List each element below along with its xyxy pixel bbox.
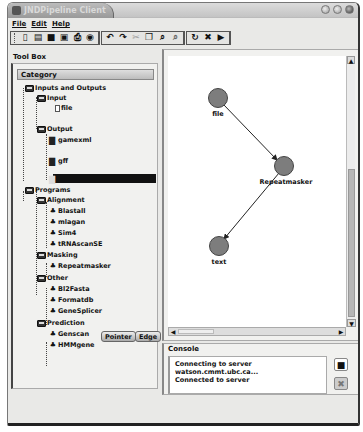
status-area [8, 398, 359, 424]
console-line: Connecting to server [175, 360, 326, 368]
canvas-vertical-scrollbar[interactable]: ▲ ▼ [346, 56, 355, 327]
console-line: watson.cmmt.ubc.ca... [175, 368, 326, 376]
open-icon[interactable]: ▤ [33, 33, 43, 43]
minimize-button[interactable] [321, 5, 330, 14]
app-icon [12, 6, 21, 15]
folder-icon [37, 95, 46, 102]
tree-item-other[interactable]: Other [37, 273, 68, 283]
pointer-button[interactable]: Pointer [101, 331, 136, 342]
toolbar: ▯ ▤ ■ ▣ ⎙ ◉ ↶ ↷ ✂ ❐ ⌕ ⌕ ↻ ✖ ▶ [8, 30, 358, 45]
tree-item-text[interactable]: ▇ text [49, 174, 73, 184]
console-save-button[interactable]: ■ [334, 358, 348, 371]
tree-item-sim4[interactable]: ♣ Sim4 [49, 228, 76, 238]
close-button[interactable] [345, 5, 354, 14]
redo-icon[interactable]: ↷ [118, 33, 128, 43]
undo-icon[interactable]: ↶ [105, 33, 115, 43]
tree-item-mlagan[interactable]: ♣ mlagan [49, 217, 85, 227]
new-icon[interactable]: ▯ [20, 33, 30, 43]
program-icon: ♣ [49, 262, 57, 270]
graph-node-label-text: text [212, 258, 227, 266]
tree-item-repeatmasker[interactable]: ♣ Repeatmasker [49, 261, 111, 271]
scroll-thumb[interactable] [178, 329, 214, 334]
save-icon[interactable]: ■ [46, 33, 56, 43]
stop-icon[interactable]: ✖ [203, 33, 213, 43]
menu-edit[interactable]: Edit [31, 20, 47, 28]
zoom-out-icon[interactable]: ⌕ [170, 33, 180, 43]
program-icon: ♣ [49, 341, 57, 349]
tree-item-genscan[interactable]: ♣ Genscan [49, 329, 89, 339]
tree-connector [23, 191, 24, 201]
tree-item-blastall[interactable]: ♣ Blastall [49, 206, 85, 216]
file-icon [55, 105, 60, 112]
toolbox-label: Tool Box [11, 49, 160, 63]
tree-item-hmmgene[interactable]: ♣ HMMgene [49, 340, 94, 350]
menu-bar: File Edit Help [8, 18, 358, 30]
toolbox-tree-container: Category Inputs and Outputs [11, 63, 158, 389]
program-icon: ♣ [49, 307, 57, 315]
title-bar[interactable]: JNDPipeline Client [8, 3, 358, 18]
tree-item-bl2fasta[interactable]: ♣ Bl2Fasta [49, 284, 90, 294]
scroll-left-arrow-icon[interactable]: ◀ [169, 328, 177, 335]
toolbar-group-run: ↻ ✖ ▶ [186, 31, 231, 45]
tree-item-trnascanse[interactable]: ♣ tRNAscanSE [49, 239, 102, 249]
tree-connector [46, 342, 47, 366]
tree-item-gamexml[interactable]: ▇ gamexml [49, 135, 91, 145]
menu-file[interactable]: File [12, 20, 26, 28]
console-panel: Console Connecting to server watson.cmmt… [162, 343, 359, 395]
scroll-thumb[interactable] [348, 169, 355, 317]
tree-item-genesplicer[interactable]: ♣ GeneSplicer [49, 306, 102, 316]
tree-item-programs[interactable]: Programs [25, 185, 70, 195]
settings-icon[interactable]: ◉ [85, 33, 95, 43]
tree-connector [23, 88, 24, 181]
graph-node-text[interactable] [210, 237, 229, 256]
workflow-graph [168, 56, 346, 327]
graph-node-repeatmasker[interactable] [275, 157, 294, 176]
tree-item-alignment[interactable]: Alignment [37, 195, 85, 205]
program-icon: ♣ [49, 229, 57, 237]
canvas-horizontal-scrollbar[interactable]: ◀ ▶ [168, 327, 346, 336]
scroll-right-arrow-icon[interactable]: ▶ [337, 328, 345, 335]
cut-icon[interactable]: ✂ [131, 33, 141, 43]
toolbar-group-edit: ↶ ↷ ✂ ❐ ⌕ ⌕ [101, 31, 185, 45]
tree-item-masking[interactable]: Masking [37, 250, 78, 260]
menu-help[interactable]: Help [52, 20, 70, 28]
category-header[interactable]: Category [17, 69, 154, 80]
folder-open-icon [37, 320, 46, 327]
tree-item-input[interactable]: Input [37, 93, 66, 103]
folder-icon [37, 252, 46, 259]
app-window: JNDPipeline Client File Edit Help ▯ ▤ ■ … [7, 2, 360, 426]
zoom-in-icon[interactable]: ⌕ [157, 33, 167, 43]
tree-item-gff[interactable]: ▇ gff [49, 156, 68, 166]
console-output[interactable]: Connecting to server watson.cmmt.ubc.ca.… [168, 356, 327, 394]
folder-icon [37, 197, 46, 204]
maximize-button[interactable] [333, 5, 342, 14]
graph-node-file[interactable] [209, 89, 228, 108]
refresh-icon[interactable]: ↻ [190, 33, 200, 43]
program-icon: ♣ [49, 296, 57, 304]
scroll-up-arrow-icon[interactable]: ▲ [347, 56, 355, 64]
copy-icon[interactable]: ❐ [144, 33, 154, 43]
program-icon: ♣ [49, 330, 57, 338]
run-icon[interactable]: ▶ [216, 33, 226, 43]
scroll-down-arrow-icon[interactable]: ▼ [347, 319, 356, 327]
folder-icon [37, 126, 46, 133]
folder-icon [25, 187, 34, 194]
save-as-icon[interactable]: ▣ [59, 33, 69, 43]
tree-item-output[interactable]: Output [37, 124, 73, 134]
tree-item-formatdb[interactable]: ♣ Formatdb [49, 295, 93, 305]
edge-button[interactable]: Edge [135, 331, 161, 342]
print-icon[interactable]: ⎙ [72, 33, 82, 43]
tree-item-prediction[interactable]: Prediction [37, 318, 85, 328]
console-line: Connected to server [175, 376, 326, 384]
output-format-icon: ▇ [49, 137, 57, 144]
tree-item-inputs-and-outputs[interactable]: Inputs and Outputs [25, 83, 106, 93]
edge-file-to-repeatmasker[interactable] [223, 104, 277, 160]
toolbar-grip[interactable] [14, 33, 16, 43]
console-clear-button[interactable]: ✖ [334, 377, 348, 390]
program-icon: ♣ [49, 240, 57, 248]
clear-icon: ✖ [337, 379, 345, 389]
tree-connector [46, 134, 47, 180]
output-format-icon: ▇ [49, 176, 57, 183]
workflow-canvas[interactable]: file Repeatmasker text [168, 56, 346, 327]
tree-item-file[interactable]: file [55, 103, 72, 113]
